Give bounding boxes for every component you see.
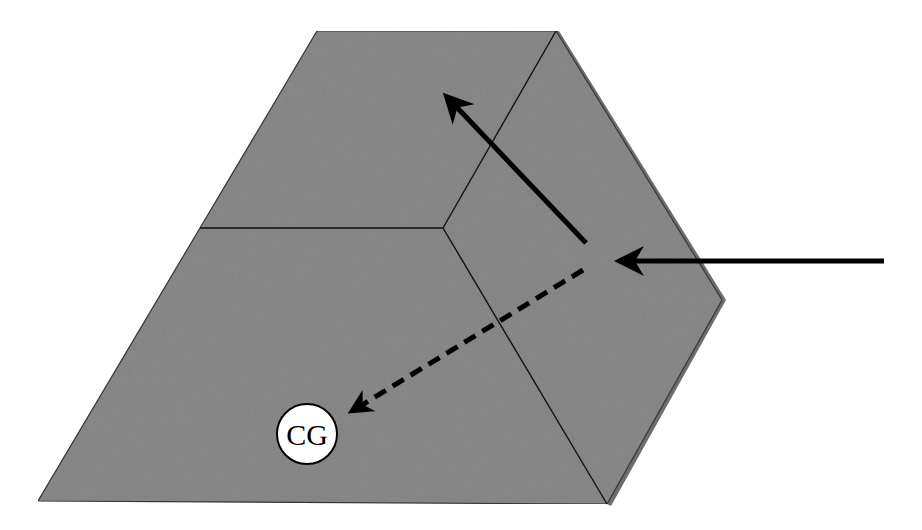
- center-of-gravity-marker: CG: [277, 404, 337, 464]
- wedge-block: [38, 31, 722, 504]
- diagram-canvas: CG: [0, 0, 922, 530]
- cg-label: CG: [286, 418, 328, 451]
